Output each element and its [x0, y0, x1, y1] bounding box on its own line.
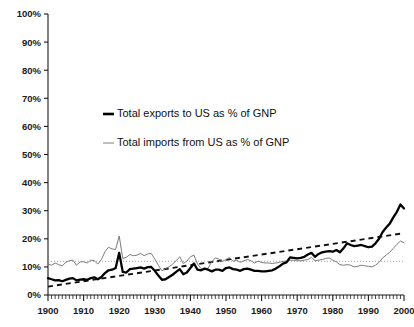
- x-axis-tick-label: 1940: [180, 305, 201, 316]
- x-axis-tick-label: 2000: [393, 305, 414, 316]
- x-axis-tick-label: 1920: [109, 305, 130, 316]
- x-axis-tick-label: 1970: [287, 305, 308, 316]
- y-axis-tick-label: 20%: [22, 233, 42, 244]
- y-axis-tick-label: 90%: [22, 37, 42, 48]
- y-axis-tick-label: 10%: [22, 261, 42, 272]
- y-axis: 0%10%20%30%40%50%60%70%80%90%100%: [17, 8, 48, 300]
- x-axis-tick-label: 1980: [322, 305, 343, 316]
- y-axis-tick-label: 0%: [27, 289, 41, 300]
- x-axis: 1900191019201930194019501960197019801990…: [37, 295, 414, 316]
- y-axis-tick-label: 70%: [22, 93, 42, 104]
- x-axis-tick-label: 1960: [251, 305, 272, 316]
- line-chart: 0%10%20%30%40%50%60%70%80%90%100% 190019…: [0, 0, 414, 327]
- chart-container: 0%10%20%30%40%50%60%70%80%90%100% 190019…: [0, 0, 414, 327]
- x-axis-tick-label: 1910: [73, 305, 94, 316]
- x-axis-tick-label: 1930: [144, 305, 165, 316]
- legend-label-imports: Total imports from US as % of GNP: [117, 136, 289, 148]
- imports-series-line: [48, 236, 404, 271]
- legend-label-exports: Total exports to US as % of GNP: [117, 107, 277, 119]
- y-axis-tick-label: 30%: [22, 205, 42, 216]
- x-axis-tick-label: 1990: [358, 305, 379, 316]
- y-axis-tick-label: 40%: [22, 177, 42, 188]
- series-layer: [48, 205, 404, 282]
- chart-legend: Total exports to US as % of GNPTotal imp…: [103, 107, 289, 148]
- y-axis-tick-label: 60%: [22, 121, 42, 132]
- x-axis-tick-label: 1950: [215, 305, 236, 316]
- y-axis-tick-label: 80%: [22, 65, 42, 76]
- exports-series-line: [48, 205, 404, 282]
- y-axis-tick-label: 50%: [22, 149, 42, 160]
- y-axis-tick-label: 100%: [17, 8, 42, 19]
- x-axis-tick-label: 1900: [37, 305, 58, 316]
